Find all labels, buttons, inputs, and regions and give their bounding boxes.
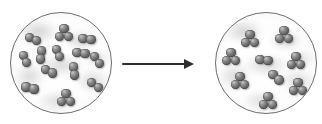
reactant-vessel-contents: [11, 13, 111, 113]
atom-sphere: [86, 35, 95, 44]
atom-sphere: [57, 97, 66, 106]
atom-sphere: [55, 52, 64, 61]
atom-sphere: [32, 36, 41, 45]
atom-sphere: [29, 84, 38, 93]
product-vessel: [215, 12, 317, 114]
atom-sphere: [289, 86, 299, 96]
reaction-arrow-shaft: [122, 63, 186, 65]
reaction-arrow-head: [184, 59, 194, 69]
atom-sphere: [70, 70, 79, 79]
atom-sphere: [66, 97, 75, 106]
atom-sphere: [80, 49, 89, 58]
atom-sphere: [240, 80, 250, 90]
atom-sphere: [250, 38, 260, 48]
atom-sphere: [22, 58, 31, 67]
atom-sphere: [241, 38, 251, 48]
atom-sphere: [287, 60, 297, 70]
atom-sphere: [64, 32, 73, 41]
atom-sphere: [231, 80, 241, 90]
atom-sphere: [268, 100, 278, 110]
atom-sphere: [36, 54, 45, 63]
product-vessel-contents: [216, 13, 316, 113]
molecular-reaction-figure: [0, 0, 322, 124]
atom-sphere: [259, 100, 269, 110]
atom-sphere: [284, 34, 294, 44]
atom-sphere: [275, 34, 285, 44]
atom-sphere: [274, 75, 284, 85]
atom-sphere: [231, 56, 241, 66]
atom-sphere: [263, 56, 273, 66]
atom-sphere: [48, 68, 57, 77]
atom-sphere: [298, 86, 308, 96]
atom-sphere: [222, 56, 232, 66]
atom-sphere: [94, 83, 103, 92]
atom-sphere: [95, 59, 104, 68]
atom-sphere: [55, 32, 64, 41]
atom-sphere: [296, 60, 306, 70]
reactant-vessel: [10, 12, 112, 114]
